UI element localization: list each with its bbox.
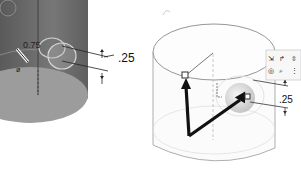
scale-icon[interactable]: ⇳ (291, 55, 297, 62)
search-icon[interactable]: ⌕ (279, 67, 283, 74)
more-icon[interactable]: ⋮ (291, 67, 298, 74)
dimension-label-075: 0.75 (23, 40, 41, 50)
handle-top[interactable] (182, 72, 188, 78)
rotate-icon[interactable]: ↱ (279, 55, 285, 62)
handle-sphere[interactable] (245, 94, 250, 99)
move-icon[interactable]: ⇲ (268, 55, 274, 62)
cad-illustration: 0.75 ø .25 ⇲ ↱ ⇳ (0, 0, 301, 175)
right-cylinder-view: ⇲ ↱ ⇳ ◎ ⌕ ⋮ .25 (153, 11, 301, 161)
context-toolbar[interactable]: ⇲ ↱ ⇳ ◎ ⌕ ⋮ (266, 50, 301, 80)
svg-text:ø: ø (16, 66, 21, 73)
sphere-outline (48, 43, 76, 69)
cylinder-top-ellipse (153, 24, 275, 80)
dimension-label-025-left: .25 (118, 51, 135, 65)
dimension-label-025-right: .25 (279, 94, 293, 105)
view-icon[interactable]: ◎ (268, 67, 274, 74)
left-cylinder-view: 0.75 ø .25 (0, 0, 135, 123)
